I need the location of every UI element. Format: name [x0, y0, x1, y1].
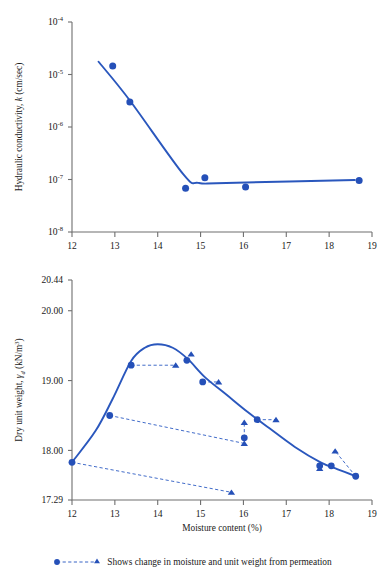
- figure-container: 10-410-510-610-710-81213141516171819Hydr…: [0, 0, 383, 576]
- legend-label: Shows change in moisture and unit weight…: [107, 557, 331, 567]
- x-tick-label: 14: [153, 240, 163, 251]
- data-point-circle: [199, 379, 206, 386]
- y-tick-label: 10-8: [48, 225, 64, 237]
- permeation-link: [72, 462, 231, 492]
- x-tick-label: 18: [324, 240, 334, 251]
- data-point-circle: [328, 462, 335, 469]
- data-point-circle: [356, 177, 363, 184]
- data-point-circle: [69, 459, 76, 466]
- x-tick-label: 14: [153, 508, 163, 519]
- y-axis-title: Dry unit weight, γd (kN/m3): [13, 338, 26, 441]
- x-tick-label: 12: [67, 240, 77, 251]
- chart-panel-hydraulic-conductivity: 10-410-510-610-710-81213141516171819Hydr…: [0, 0, 383, 262]
- y-tick-label: 19.00: [41, 375, 63, 386]
- x-tick-label: 12: [67, 508, 77, 519]
- x-tick-label: 19: [367, 508, 377, 519]
- chart-legend: Shows change in moisture and unit weight…: [0, 548, 383, 576]
- data-point-triangle: [331, 448, 338, 453]
- x-tick-label: 16: [239, 508, 249, 519]
- data-point-circle: [183, 357, 190, 364]
- fit-line: [99, 62, 355, 184]
- legend-circle-icon: [54, 559, 60, 565]
- y-tick-label: 18.00: [41, 445, 63, 456]
- y-tick-label: 20.44: [41, 274, 63, 285]
- compaction-fit-curve: [72, 344, 356, 476]
- x-tick-label: 13: [110, 240, 120, 251]
- y-tick-label: 10-5: [48, 68, 64, 80]
- data-point-triangle: [241, 420, 248, 425]
- y-tick-label: 17.29: [41, 494, 63, 505]
- data-point-circle: [254, 416, 261, 423]
- x-tick-label: 13: [110, 508, 120, 519]
- y-tick-label: 10-7: [48, 173, 64, 185]
- x-tick-label: 17: [281, 508, 291, 519]
- x-tick-label: 18: [324, 508, 334, 519]
- data-point-circle: [126, 98, 133, 105]
- x-tick-label: 19: [367, 240, 377, 251]
- data-point-circle: [241, 434, 248, 441]
- data-point-circle: [242, 183, 249, 190]
- permeation-link: [110, 415, 245, 443]
- y-axis-title: Hydraulic conductivity, k (cm/sec): [14, 63, 25, 192]
- data-point-circle: [106, 412, 113, 419]
- data-point-circle: [201, 174, 208, 181]
- legend-marker-sample: [51, 556, 103, 568]
- data-point-circle: [128, 362, 135, 369]
- legend-entry: Shows change in moisture and unit weight…: [51, 556, 331, 568]
- x-axis-title: Moisture content (%): [182, 523, 262, 534]
- x-tick-label: 15: [196, 240, 206, 251]
- axes: [72, 22, 372, 232]
- data-point-circle: [109, 63, 116, 70]
- chart-panel-compaction: 20.4420.0019.0018.0017.29121314151617181…: [0, 262, 383, 512]
- data-point-circle: [316, 462, 323, 469]
- y-tick-label: 10-6: [48, 120, 64, 132]
- data-point-triangle: [272, 417, 279, 422]
- x-tick-label: 15: [196, 508, 206, 519]
- y-tick-label: 10-4: [48, 15, 64, 27]
- x-tick-label: 17: [281, 240, 291, 251]
- legend-triangle-icon: [94, 559, 100, 564]
- compaction-curve-plot: 20.4420.0019.0018.0017.29121314151617181…: [0, 262, 383, 512]
- data-point-triangle: [187, 351, 194, 356]
- data-point-circle: [182, 185, 189, 192]
- hydraulic-conductivity-plot: 10-410-510-610-710-81213141516171819Hydr…: [0, 0, 383, 262]
- data-point-circle: [352, 473, 359, 480]
- x-tick-label: 16: [239, 240, 249, 251]
- y-tick-label: 20.00: [41, 305, 63, 316]
